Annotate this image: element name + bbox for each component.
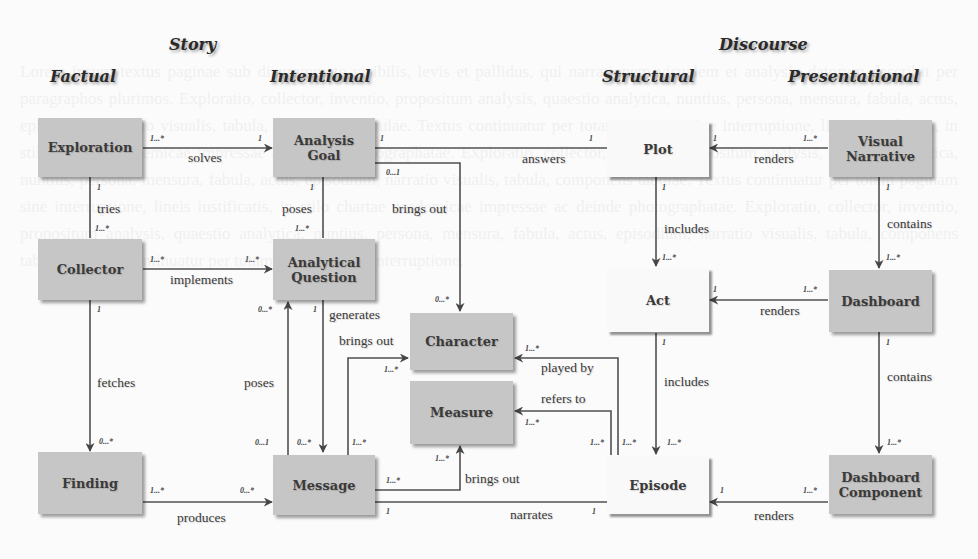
mult-implements-target: 1...* [245, 255, 259, 264]
mult-renders-plot-target: 1 [713, 134, 717, 143]
entity-measure[interactable]: Measure [410, 381, 513, 444]
mult-renders-act-source: 1...* [803, 285, 817, 294]
mult-implements-source: 1...* [150, 255, 164, 264]
label-answers: answers [522, 151, 566, 167]
heading-factual: Factual [50, 67, 116, 86]
label-solves: solves [188, 150, 222, 166]
mult-brings-out-question-target: 1...* [384, 365, 398, 374]
heading-discourse: Discourse [719, 35, 808, 54]
mult-solves-source: 1...* [150, 134, 164, 143]
mult-contains-vn-target: 1...* [886, 253, 900, 262]
label-includes-plot: includes [664, 221, 709, 237]
entity-dashboard[interactable]: Dashboard [829, 270, 932, 332]
mult-played-by-source: 1...* [590, 438, 604, 447]
label-poses-message: poses [244, 375, 274, 391]
mult-narrates-target: 1 [592, 507, 596, 516]
mult-contains-db-target: 1...* [887, 438, 901, 447]
label-renders-plot: renders [754, 151, 794, 167]
label-contains-db: contains [887, 369, 932, 385]
mult-tries-source: 1 [97, 183, 101, 192]
mult-poses-goal-source: 1 [310, 183, 314, 192]
mult-contains-db-source: 1 [886, 338, 890, 347]
entity-analysis-goal[interactable]: Analysis Goal [273, 118, 375, 177]
mult-refers-to-target: 1...* [525, 418, 539, 427]
heading-story: Story [169, 35, 216, 54]
mult-solves-target: 1 [258, 134, 262, 143]
mult-narrates-source: 1 [386, 507, 390, 516]
mult-played-by-target: 1...* [525, 344, 539, 353]
mult-poses-message-source: 0...1 [255, 438, 269, 447]
label-played-by: played by [541, 360, 594, 376]
entity-visual-narrative[interactable]: Visual Narrative [829, 120, 932, 177]
mult-includes-act-source: 1 [662, 338, 666, 347]
mult-brings-out-goal-source: 0...1 [386, 168, 400, 177]
mult-includes-plot-source: 1 [662, 183, 666, 192]
mult-produces-target: 0...* [240, 486, 254, 495]
label-narrates: narrates [510, 507, 553, 523]
entity-character[interactable]: Character [410, 313, 513, 370]
mult-brings-out-question-source: 1...* [352, 438, 366, 447]
edge-brings-out-goal [375, 163, 460, 311]
mult-brings-out-message-source: 1...* [386, 476, 400, 485]
label-generates: generates [329, 307, 380, 323]
mult-includes-plot-target: 1...* [662, 253, 676, 262]
label-poses-goal: poses [282, 201, 312, 217]
entity-plot[interactable]: Plot [607, 121, 709, 177]
mult-poses-goal-target: 1...* [295, 224, 309, 233]
mult-generates-target: 0...* [297, 438, 311, 447]
heading-structural: Structural [602, 67, 695, 86]
label-tries: tries [97, 201, 120, 217]
entity-episode[interactable]: Episode [607, 456, 709, 514]
heading-intentional: Intentional [270, 67, 371, 86]
label-renders-act: renders [760, 303, 800, 319]
entity-collector[interactable]: Collector [38, 239, 142, 300]
entity-analytical-question[interactable]: Analytical Question [273, 239, 375, 300]
heading-presentational: Presentational [788, 67, 919, 86]
mult-includes-act-target: 1...* [667, 438, 681, 447]
mult-brings-out-goal-target: 0...* [435, 295, 449, 304]
mult-brings-out-message-target: 1...* [435, 454, 449, 463]
label-brings-out-goal: brings out [392, 201, 446, 217]
label-refers-to: refers to [541, 391, 586, 407]
mult-renders-episode-source: 1...* [803, 486, 817, 495]
label-renders-episode: renders [754, 508, 794, 524]
entity-finding[interactable]: Finding [38, 452, 142, 514]
label-brings-out-question: brings out [339, 333, 393, 349]
entity-exploration[interactable]: Exploration [38, 118, 142, 177]
label-brings-out-message: brings out [465, 471, 519, 487]
label-includes-act: includes [664, 374, 709, 390]
mult-poses-message-target: 0...* [258, 305, 272, 314]
mult-renders-episode-target: 1 [720, 486, 724, 495]
entity-dashboard-component[interactable]: Dashboard Component [829, 455, 932, 514]
mult-fetches-target: 0...* [99, 437, 113, 446]
mult-produces-source: 1...* [150, 486, 164, 495]
mult-fetches-source: 1 [97, 305, 101, 314]
mult-refers-to-source: 1...* [622, 438, 636, 447]
label-produces: produces [177, 510, 226, 526]
entity-message[interactable]: Message [273, 455, 375, 515]
mult-renders-plot-source: 1...* [803, 134, 817, 143]
label-fetches: fetches [97, 375, 135, 391]
mult-tries-target: 1...* [95, 224, 109, 233]
mult-contains-vn-source: 1 [886, 183, 890, 192]
entity-act[interactable]: Act [607, 268, 709, 332]
mult-answers-target: 1 [589, 134, 593, 143]
label-implements: implements [170, 272, 233, 288]
mult-answers-source: 1 [380, 134, 384, 143]
label-contains-vn: contains [887, 216, 932, 232]
mult-renders-act-target: 1 [713, 285, 717, 294]
mult-generates-source: 1 [313, 305, 317, 314]
